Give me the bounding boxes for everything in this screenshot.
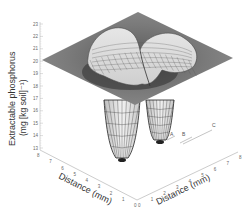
z-tick-label: 20: [33, 59, 39, 64]
y-tick-label: 0: [138, 203, 141, 208]
z-axis-ticks: 1314151617181920212223: [33, 22, 43, 151]
x-tick-label: 6: [61, 166, 64, 171]
y-axis-title: Distance (mm): [154, 172, 211, 207]
surface-chart: 1314151617181920212223 876543210 0123456…: [0, 0, 251, 215]
annotation-b: B: [182, 131, 186, 137]
annotations: A B C: [167, 122, 216, 144]
z-tick-label: 17: [33, 96, 39, 101]
z-tick-label: 16: [33, 108, 39, 113]
annotation-a: A: [170, 131, 174, 137]
annotation-c: C: [212, 122, 216, 128]
z-tick-label: 23: [33, 22, 39, 27]
y-tick-label: 6: [214, 167, 217, 172]
y-tick-label: 7: [226, 161, 229, 166]
x-tick-label: 1: [122, 197, 125, 202]
z-axis-title: Extractable phosphorus: [7, 51, 17, 146]
depletion-funnels: [104, 100, 174, 162]
x-axis-title: Distance (mm): [57, 171, 114, 206]
z-tick-label: 18: [33, 84, 39, 89]
y-tick-label: 8: [239, 155, 242, 160]
x-tick-label: 7: [49, 159, 52, 164]
x-tick-label: 8: [37, 153, 40, 158]
z-tick-label: 15: [33, 121, 39, 126]
z-tick-label: 22: [33, 34, 39, 39]
z-tick-label: 21: [33, 46, 39, 51]
z-axis: 1314151617181920212223: [33, 22, 43, 151]
z-tick-label: 14: [33, 133, 39, 138]
x-tick-label: 0: [134, 203, 137, 208]
y-tick-label: 1: [151, 197, 154, 202]
z-tick-label: 13: [33, 146, 39, 151]
z-tick-label: 19: [33, 71, 39, 76]
z-axis-title-units: (mg [kg soil]⁻¹): [18, 79, 28, 136]
